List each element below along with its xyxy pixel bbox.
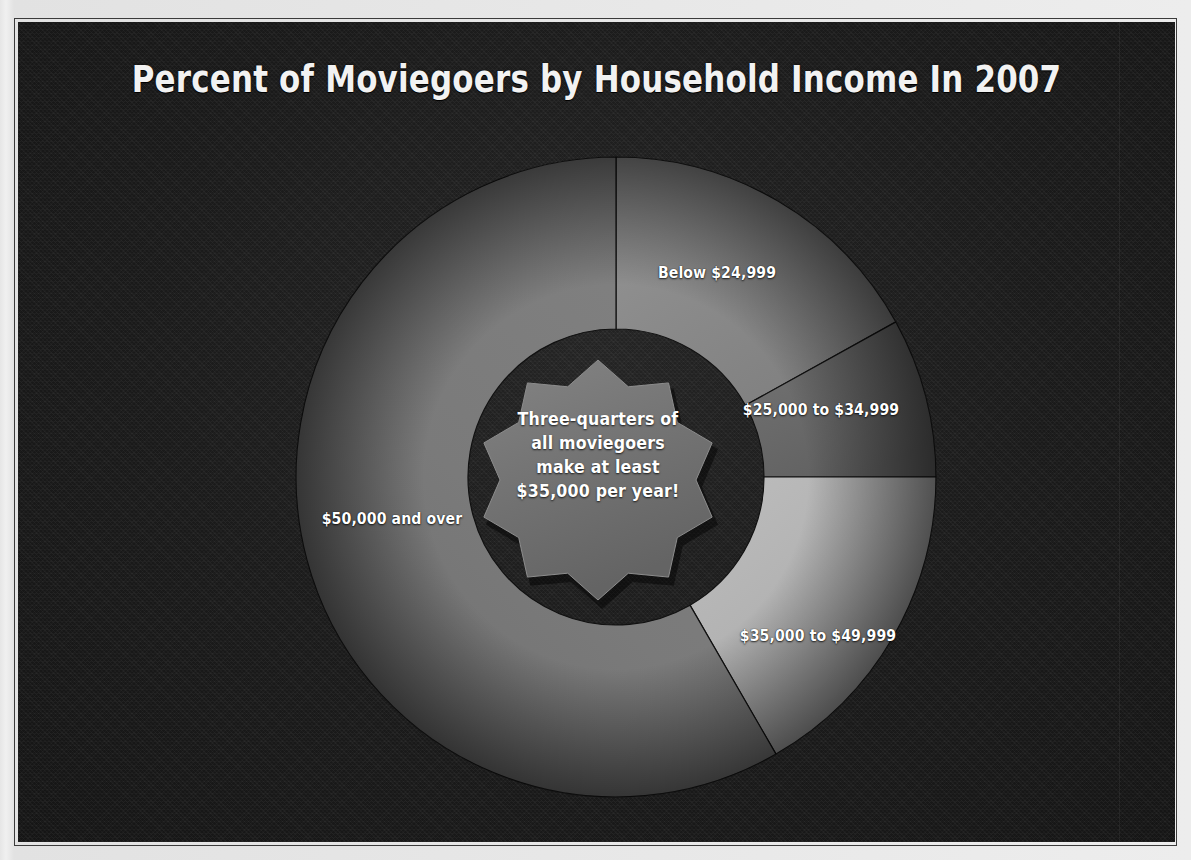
callout-line-2: all moviegoers	[517, 431, 680, 455]
callout-line-3: make at least	[517, 455, 680, 479]
chart-panel: Percent of Moviegoers by Household Incom…	[18, 22, 1175, 842]
donut-chart: Below $24,999 $25,000 to $34,999 $35,000…	[18, 22, 1175, 842]
page-background: Percent of Moviegoers by Household Incom…	[0, 0, 1191, 860]
callout-line-4: $35,000 per year!	[517, 479, 680, 503]
callout-line-1: Three-quarters of	[517, 407, 680, 431]
center-callout: Three-quarters of all moviegoers make at…	[512, 407, 683, 503]
